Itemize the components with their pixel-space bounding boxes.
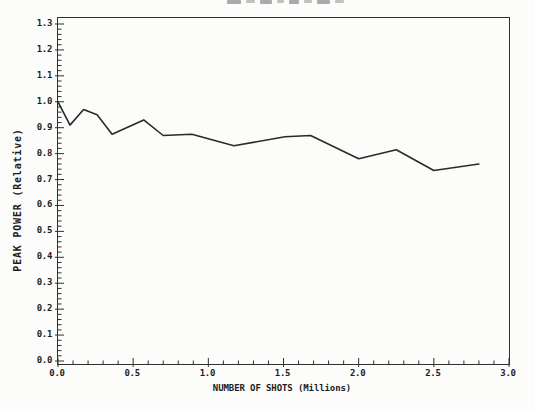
y-axis-title: PEAK POWER (Relative) <box>12 120 26 280</box>
title-fragment-mark <box>335 0 344 3</box>
title-fragment-mark <box>246 0 255 3</box>
cropped-title-fragment <box>227 0 344 6</box>
y-tick-label: 0.5 <box>25 225 52 235</box>
x-axis-ticks <box>58 358 509 367</box>
y-axis-ticks <box>55 24 64 361</box>
x-tick-label: 1.0 <box>194 368 220 378</box>
title-fragment-mark <box>260 0 272 4</box>
y-tick-label: 0.8 <box>25 148 52 158</box>
y-tick-label: 1.0 <box>25 96 52 106</box>
x-tick-label: 2.5 <box>420 368 446 378</box>
x-axis-title: NUMBER OF SHOTS (Millions) <box>182 383 382 393</box>
y-tick-label: 0.2 <box>25 303 52 313</box>
y-tick-label: 0.3 <box>25 277 52 287</box>
y-tick-label: 1.1 <box>25 70 52 80</box>
title-fragment-mark <box>289 0 299 4</box>
x-tick-label: 0.5 <box>119 368 145 378</box>
x-tick-label: 2.0 <box>345 368 371 378</box>
data-line <box>58 102 479 171</box>
y-tick-label: 1.2 <box>25 44 52 54</box>
plot-svg <box>58 18 509 364</box>
title-fragment-mark <box>304 0 312 3</box>
y-tick-label: 1.3 <box>25 18 52 28</box>
scanned-figure-page: 0.00.10.20.30.40.50.60.70.80.91.01.11.21… <box>0 0 535 410</box>
x-tick-label: 1.5 <box>270 368 296 378</box>
title-fragment-mark <box>277 0 284 3</box>
y-tick-label: 0.9 <box>25 122 52 132</box>
plot-area <box>57 17 510 365</box>
x-tick-label: 3.0 <box>495 368 521 378</box>
y-tick-label: 0.1 <box>25 329 52 339</box>
x-tick-label: 0.0 <box>44 368 70 378</box>
y-tick-label: 0.0 <box>25 355 52 365</box>
y-tick-label: 0.6 <box>25 199 52 209</box>
title-fragment-mark <box>227 0 241 4</box>
y-tick-label: 0.4 <box>25 251 52 261</box>
y-tick-label: 0.7 <box>25 174 52 184</box>
title-fragment-mark <box>317 0 330 4</box>
